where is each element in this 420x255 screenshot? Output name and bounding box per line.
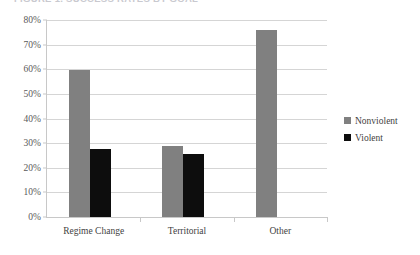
x-axis-tick-mark xyxy=(140,217,141,222)
legend-item-violent[interactable]: Violent xyxy=(344,130,416,145)
y-axis-tick-label: 20% xyxy=(24,163,41,173)
bar-group xyxy=(140,20,233,217)
x-axis-tick-label: Territorial xyxy=(168,226,206,236)
y-axis-tick-label: 30% xyxy=(24,138,41,148)
chart-legend: NonviolentViolent xyxy=(344,113,416,147)
bar-nonviolent-other xyxy=(256,30,277,217)
x-axis-tick-mark xyxy=(327,217,328,222)
plot-area: 0%10%20%30%40%50%60%70%80% Regime Change… xyxy=(46,20,327,218)
bars-layer xyxy=(47,20,327,217)
y-axis-tick-label: 80% xyxy=(24,15,41,25)
bar-chart-figure: FIGURE 1. SUCCESS RATES BY GOAL 0%10%20%… xyxy=(0,0,420,255)
y-axis-tick-label: 60% xyxy=(24,64,41,74)
bar-violent-regime-change xyxy=(90,149,111,217)
bar-group xyxy=(47,20,140,217)
legend-swatch-icon xyxy=(344,134,351,141)
legend-label: Violent xyxy=(355,133,383,143)
x-axis-tick-label: Regime Change xyxy=(63,226,124,236)
bar-group xyxy=(234,20,327,217)
y-axis-tick-label: 10% xyxy=(24,187,41,197)
legend-label: Nonviolent xyxy=(355,116,398,126)
x-axis-tick-label: Other xyxy=(270,226,292,236)
y-axis-tick-label: 70% xyxy=(24,40,41,50)
chart-title: FIGURE 1. SUCCESS RATES BY GOAL xyxy=(14,0,344,5)
legend-swatch-icon xyxy=(344,117,351,124)
legend-item-nonviolent[interactable]: Nonviolent xyxy=(344,113,416,128)
bar-nonviolent-regime-change xyxy=(69,70,90,217)
y-axis-tick-label: 0% xyxy=(28,212,41,222)
bar-violent-territorial xyxy=(183,154,204,217)
x-axis-tick-mark xyxy=(234,217,235,222)
y-axis-tick-label: 50% xyxy=(24,89,41,99)
bar-nonviolent-territorial xyxy=(162,146,183,217)
y-axis-tick-label: 40% xyxy=(24,114,41,124)
